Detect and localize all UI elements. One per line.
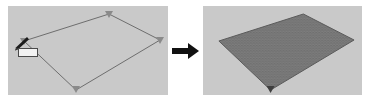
panel-after bbox=[203, 6, 362, 95]
pen-tool-cursor[interactable] bbox=[12, 37, 40, 63]
vertex-bottom-marker bbox=[72, 86, 80, 93]
cursor-tooltip bbox=[18, 48, 38, 57]
meshed-surface-canvas bbox=[203, 6, 362, 95]
vertex-bottom-marker-meshed bbox=[267, 86, 275, 93]
arrow-right-icon bbox=[172, 43, 199, 59]
vertex-right-marker bbox=[156, 37, 164, 44]
surface-mesh-generation-figure bbox=[0, 0, 370, 107]
surface-boundary-outline bbox=[24, 14, 160, 90]
meshed-surface-polygon bbox=[219, 14, 354, 90]
transformation-arrow bbox=[172, 43, 199, 59]
